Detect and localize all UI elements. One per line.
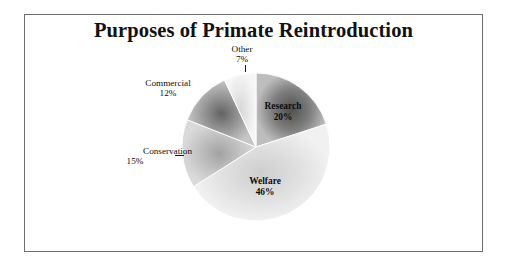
pie-label-other: Other 7% [206,44,278,65]
pie-label-research-value: 20% [250,112,316,123]
chart-figure: Purposes of Primate Reintroduction [0,0,508,267]
pie-label-conservation-value: 15% [92,156,192,166]
pie-label-welfare-value: 46% [232,187,298,198]
pie-label-conservation: Conservation 15% [92,146,192,167]
pie-label-other-value: 7% [206,54,278,64]
pie-label-research: Research 20% [250,101,316,122]
pie-chart [0,0,508,267]
pie-label-conservation-name: Conservation [92,146,192,156]
pie-label-commercial: Commercial 12% [124,78,212,99]
pie-label-welfare: Welfare 46% [232,176,298,197]
pie-label-other-name: Other [206,44,278,54]
pie-label-research-name: Research [250,101,316,112]
pie-label-welfare-name: Welfare [232,176,298,187]
pie-label-commercial-name: Commercial [124,78,212,88]
pie-label-commercial-value: 12% [124,88,212,98]
leader-line-other [245,65,246,72]
